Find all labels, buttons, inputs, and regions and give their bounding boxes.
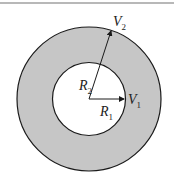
label-v2: V2 (113, 14, 126, 32)
annulus-diagram: R2 R1 V1 V2 (0, 0, 174, 180)
